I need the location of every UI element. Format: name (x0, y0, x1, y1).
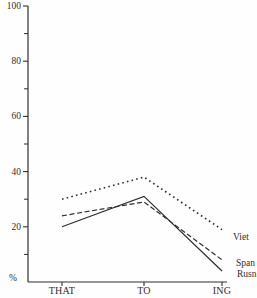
line-chart-figure: %20406080100THATTOINGVietSpanRusn (0, 0, 257, 298)
y-axis-tick-label: 40 (12, 167, 22, 177)
series-line-rusn (62, 196, 222, 271)
series-label-span: Span (236, 258, 255, 268)
series-label-viet: Viet (233, 232, 249, 242)
y-axis-tick-label: 100 (7, 1, 22, 11)
series-label-rusn: Rusn (237, 269, 257, 279)
y-axis-tick-label: 20 (12, 222, 22, 232)
x-axis-category-label-that: THAT (49, 285, 75, 296)
x-axis-category-label-ing: ING (213, 285, 231, 296)
series-line-viet (62, 177, 222, 230)
y-axis-tick-label: 80 (12, 56, 22, 66)
series-line-span (62, 202, 222, 260)
x-axis-category-label-to: TO (137, 285, 151, 296)
y-axis-tick-label: 60 (12, 111, 22, 121)
chart-canvas: %20406080100THATTOINGVietSpanRusn (0, 0, 257, 298)
y-axis-unit-label: % (9, 273, 17, 283)
